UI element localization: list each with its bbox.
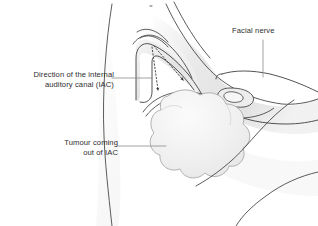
label-tumour-line1: Tumour coming bbox=[40, 138, 118, 148]
label-iac-line2: auditory canal (IAC) bbox=[14, 80, 114, 90]
label-facial-nerve: Facial nerve bbox=[232, 26, 306, 36]
label-facial-nerve-line1: Facial nerve bbox=[232, 26, 306, 36]
label-iac: Direction of the internal auditory canal… bbox=[14, 70, 114, 89]
label-tumour: Tumour coming out of IAC bbox=[40, 138, 118, 157]
label-tumour-line2: out of IAC bbox=[40, 148, 118, 158]
medical-illustration-figure: Direction of the internal auditory canal… bbox=[0, 0, 318, 226]
label-iac-line1: Direction of the internal bbox=[14, 70, 114, 80]
